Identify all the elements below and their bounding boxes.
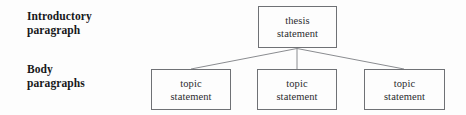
connector-thesis-to-topic-3	[297, 49, 404, 70]
node-topic-statement-3: topic statement	[364, 69, 445, 110]
node-topic-statement-2: topic statement	[257, 69, 337, 110]
node-topic-statement-3-label: topic statement	[384, 77, 425, 103]
node-topic-statement-2-label: topic statement	[276, 77, 317, 103]
essay-structure-diagram: Introductory paragraph Body paragraphs t…	[0, 0, 466, 115]
node-topic-statement-1-label: topic statement	[170, 77, 211, 103]
node-thesis-statement-label: thesis statement	[277, 14, 318, 40]
connector-thesis-to-topic-1	[191, 49, 297, 70]
node-topic-statement-1: topic statement	[151, 69, 231, 110]
node-thesis-statement: thesis statement	[258, 6, 337, 48]
